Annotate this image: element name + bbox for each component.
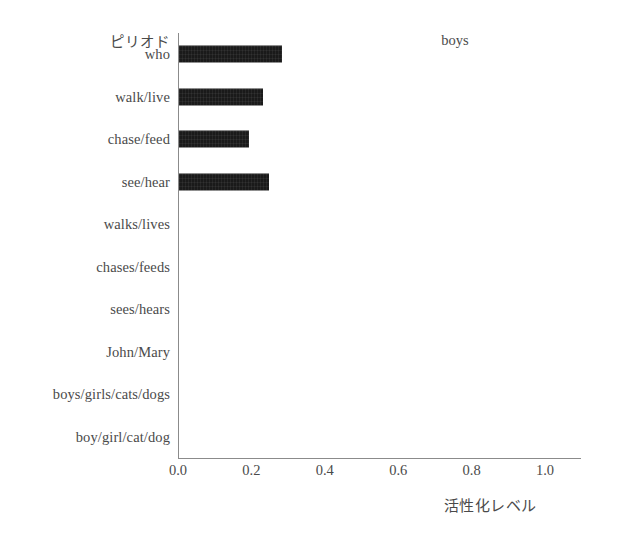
- category-label: boys/girls/cats/dogs: [0, 386, 170, 403]
- bar-row: who: [0, 33, 622, 76]
- x-tick-label: 0.6: [368, 462, 428, 479]
- bar-row: John/Mary: [0, 331, 622, 374]
- x-axis-line: [178, 458, 581, 459]
- category-label: chases/feeds: [0, 258, 170, 275]
- bar-row: chase/feed: [0, 118, 622, 161]
- x-tick-label: 0.2: [221, 462, 281, 479]
- bar-rows: whowalk/livechase/feedsee/hearwalks/live…: [0, 33, 622, 458]
- category-label: who: [0, 46, 170, 63]
- category-label: chase/feed: [0, 131, 170, 148]
- category-label: boy/girl/cat/dog: [0, 428, 170, 445]
- bar-row: boy/girl/cat/dog: [0, 416, 622, 459]
- bar-row: walks/lives: [0, 203, 622, 246]
- bar-row: chases/feeds: [0, 246, 622, 289]
- bar-row: see/hear: [0, 161, 622, 204]
- category-label: walks/lives: [0, 216, 170, 233]
- bar-chart: ピリオド boys whowalk/livechase/feedsee/hear…: [0, 0, 622, 539]
- bar: [179, 88, 263, 105]
- bar: [179, 173, 269, 190]
- category-label: see/hear: [0, 173, 170, 190]
- bar-row: sees/hears: [0, 288, 622, 331]
- category-label: sees/hears: [0, 301, 170, 318]
- x-axis-title: 活性化レベル: [400, 494, 580, 515]
- x-tick-label: 0.8: [442, 462, 502, 479]
- bar-row: boys/girls/cats/dogs: [0, 373, 622, 416]
- x-tick-label: 0.0: [148, 462, 208, 479]
- bar: [179, 131, 249, 148]
- bar-row: walk/live: [0, 76, 622, 119]
- category-label: walk/live: [0, 88, 170, 105]
- bar: [179, 46, 282, 63]
- x-tick-label: 0.4: [295, 462, 355, 479]
- category-label: John/Mary: [0, 343, 170, 360]
- x-tick-label: 1.0: [515, 462, 575, 479]
- x-axis-ticks: 0.00.20.40.60.81.0: [0, 462, 622, 486]
